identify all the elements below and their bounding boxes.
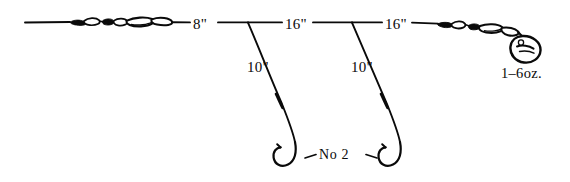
- label-length-16in-second: 16": [385, 17, 407, 32]
- label-hook-size: No 2: [319, 148, 349, 162]
- label-sinker-weight: 1–6oz.: [501, 66, 542, 81]
- main-line-segment-to-sinker: [412, 23, 438, 24]
- swivel-bead-chain-right-icon: [438, 21, 523, 37]
- sinker-weight-icon: [510, 36, 540, 63]
- fishing-rig-diagram: 8" 16" 16" 10" 10" No 2 1–6oz.: [0, 0, 570, 182]
- swivel-bead-chain-left-icon: [70, 18, 172, 27]
- label-length-10in-first: 10": [247, 60, 269, 75]
- label-length-8in: 8": [193, 17, 207, 32]
- dropper-line-second: [352, 23, 400, 142]
- main-line-left-leader: [25, 22, 70, 23]
- label-length-10in-second: 10": [351, 60, 373, 75]
- label-length-16in-first: 16": [285, 17, 307, 32]
- dropper-line-first: [248, 23, 295, 142]
